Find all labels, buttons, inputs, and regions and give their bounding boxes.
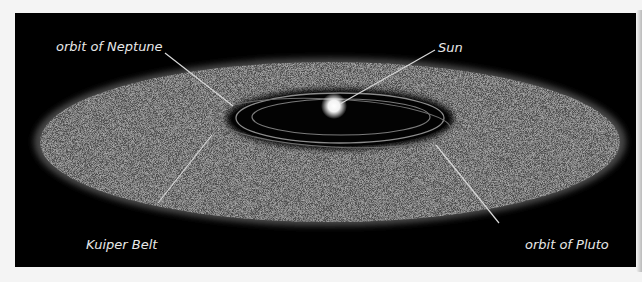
- sun: [321, 93, 347, 119]
- page-edge-shadow: [636, 10, 642, 272]
- label-orbit-of-pluto: orbit of Pluto: [525, 237, 609, 252]
- label-orbit-of-neptune: orbit of Neptune: [56, 39, 163, 54]
- label-sun: Sun: [438, 40, 463, 55]
- label-kuiper-belt: Kuiper Belt: [86, 237, 157, 252]
- diagram-panel: orbit of Neptune Sun Kuiper Belt orbit o…: [15, 13, 637, 267]
